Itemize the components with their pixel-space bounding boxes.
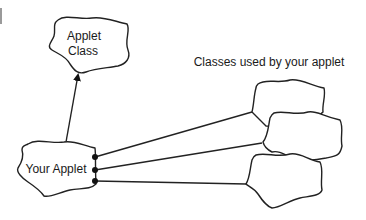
applet-class-node[interactable]: Applet Class <box>49 17 128 73</box>
used-classes-caption: Classes used by your applet <box>194 55 345 69</box>
used-class-3-shape[interactable] <box>246 154 322 208</box>
inheritance-arrow <box>66 75 78 142</box>
diagram-canvas: Applet Class Your Applet Classes used by… <box>0 0 366 220</box>
applet-class-label-line2: Class <box>68 44 98 58</box>
edge-to-used-class-3 <box>95 181 246 184</box>
edge-to-used-class-2 <box>95 143 262 170</box>
used-class-2-shape[interactable] <box>263 112 342 161</box>
your-applet-node[interactable]: Your Applet <box>18 141 96 196</box>
connection-dot-3 <box>92 178 98 184</box>
connection-dot-1 <box>92 154 98 160</box>
edge-to-used-class-1 <box>95 112 252 157</box>
your-applet-label: Your Applet <box>26 162 88 176</box>
connection-dots <box>92 154 98 184</box>
connection-dot-2 <box>92 167 98 173</box>
applet-class-label-line1: Applet <box>67 29 102 43</box>
dependency-edges <box>95 112 262 184</box>
